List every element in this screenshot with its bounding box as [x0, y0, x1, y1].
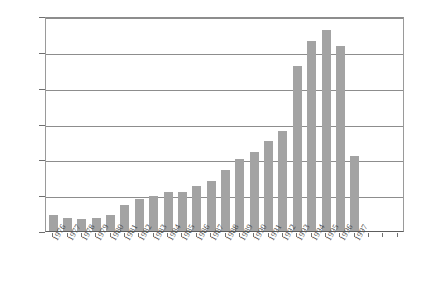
x-axis-tick-mark	[382, 233, 383, 237]
bar	[221, 170, 230, 231]
gridline	[46, 54, 403, 55]
x-axis-tick-mark	[368, 233, 369, 237]
gridline	[46, 126, 403, 127]
bar	[235, 159, 244, 231]
bar	[350, 156, 359, 231]
plot-area	[45, 17, 404, 232]
y-axis-tick-mark	[39, 232, 45, 233]
bar	[278, 131, 287, 231]
bar	[307, 41, 316, 231]
x-axis-tick-mark	[397, 233, 398, 237]
gridline	[46, 90, 403, 91]
gridline	[46, 18, 403, 19]
bar	[336, 46, 345, 231]
bar	[264, 141, 273, 231]
bar	[207, 181, 216, 231]
bar	[250, 152, 259, 231]
bar	[322, 30, 331, 231]
bar	[192, 186, 201, 231]
bar	[293, 66, 302, 231]
bar-chart: 01,0002,0003,0004,0005,0006,000 19761977…	[0, 0, 422, 282]
